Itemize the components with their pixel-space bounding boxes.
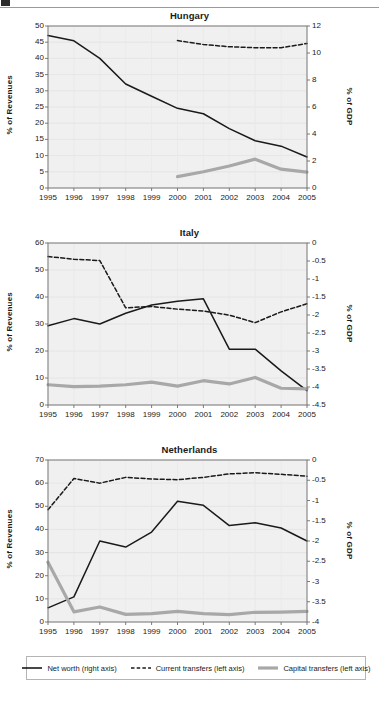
y-tick-label-right: 8 xyxy=(312,76,342,84)
page-header-artifact xyxy=(0,0,379,9)
x-tick-label: 2002 xyxy=(215,194,243,202)
y-tick-label-right: 0 xyxy=(312,239,342,247)
chart-panel-0: Hungary 05101520253035404550024681012199… xyxy=(0,9,379,208)
y-tick-label-right: 2 xyxy=(312,157,342,165)
y-tick-label-right: -2 xyxy=(312,537,342,545)
y-axis-label-right: % of GDP xyxy=(345,85,354,129)
y-tick-label-right: -2.5 xyxy=(312,557,342,565)
y-tick-label-left: 30 xyxy=(12,549,44,557)
x-tick-label: 2000 xyxy=(164,628,192,636)
y-tick-label-right: 0 xyxy=(312,184,342,192)
y-tick-label-left: 50 xyxy=(12,502,44,510)
y-tick-label-left: 10 xyxy=(12,374,44,382)
plot-area-2: 010203040506070-4-3.5-3-2.5-2-1.5-1-0.50… xyxy=(0,456,379,642)
y-tick-label-right: 12 xyxy=(312,22,342,30)
y-tick-label-right: -2.5 xyxy=(312,329,342,337)
y-tick-label-left: 40 xyxy=(12,525,44,533)
x-tick-label: 2002 xyxy=(215,411,243,419)
legend-item-0: Net worth (right axis) xyxy=(21,664,116,673)
x-tick-label: 2005 xyxy=(293,628,321,636)
y-tick-label-right: -1 xyxy=(312,497,342,505)
y-tick-label-left: 15 xyxy=(12,135,44,143)
x-tick-label: 2001 xyxy=(189,628,217,636)
y-tick-label-right: -0.5 xyxy=(312,257,342,265)
y-tick-label-left: 20 xyxy=(12,119,44,127)
x-tick-label: 1996 xyxy=(60,628,88,636)
x-tick-label: 1997 xyxy=(86,411,114,419)
x-tick-label: 1999 xyxy=(138,194,166,202)
y-tick-label-left: 10 xyxy=(12,595,44,603)
legend-swatch-icon xyxy=(257,664,279,672)
y-tick-label-left: 60 xyxy=(12,479,44,487)
x-tick-label: 1997 xyxy=(86,194,114,202)
y-tick-label-right: -3 xyxy=(312,578,342,586)
x-tick-label: 1999 xyxy=(138,628,166,636)
x-tick-label: 2004 xyxy=(267,194,295,202)
chart-title-2: Netherlands xyxy=(0,443,379,456)
x-tick-label: 1998 xyxy=(112,628,140,636)
y-tick-label-right: -3.5 xyxy=(312,365,342,373)
y-tick-label-left: 25 xyxy=(12,103,44,111)
y-tick-label-right: -1 xyxy=(312,275,342,283)
y-tick-label-left: 0 xyxy=(12,184,44,192)
plot-area-1: 0102030405060-4.5-4-3.5-3-2.5-2-1.5-1-0.… xyxy=(0,239,379,425)
y-tick-label-right: -4 xyxy=(312,618,342,626)
y-axis-label-left: % of Revenues xyxy=(5,296,14,352)
x-tick-label: 1996 xyxy=(60,194,88,202)
y-tick-label-left: 5 xyxy=(12,168,44,176)
y-tick-label-left: 40 xyxy=(12,293,44,301)
x-tick-label: 2001 xyxy=(189,194,217,202)
y-axis-label-left: % of Revenues xyxy=(5,79,14,135)
legend-item-1: Current transfers (left axis) xyxy=(130,664,245,673)
legend-label: Net worth (right axis) xyxy=(47,664,116,673)
y-tick-label-left: 35 xyxy=(12,71,44,79)
y-tick-label-right: -3.5 xyxy=(312,598,342,606)
y-tick-label-right: -3 xyxy=(312,347,342,355)
y-tick-label-left: 50 xyxy=(12,266,44,274)
legend-item-2: Capital transfers (left axis) xyxy=(257,664,370,673)
x-tick-label: 2004 xyxy=(267,411,295,419)
y-tick-label-right: 4 xyxy=(312,130,342,138)
y-axis-label-right: % of GDP xyxy=(345,519,354,563)
y-tick-label-right: -4 xyxy=(312,383,342,391)
y-tick-label-left: 0 xyxy=(12,401,44,409)
y-tick-label-left: 45 xyxy=(12,38,44,46)
y-tick-label-right: -4.5 xyxy=(312,401,342,409)
x-tick-label: 1996 xyxy=(60,411,88,419)
y-tick-label-left: 30 xyxy=(12,87,44,95)
y-tick-label-left: 20 xyxy=(12,347,44,355)
x-tick-label: 2004 xyxy=(267,628,295,636)
y-tick-label-right: 10 xyxy=(312,49,342,57)
x-tick-label: 1998 xyxy=(112,194,140,202)
x-tick-label: 1998 xyxy=(112,411,140,419)
legend-label: Capital transfers (left axis) xyxy=(283,664,370,673)
x-tick-label: 1999 xyxy=(138,411,166,419)
y-axis-label-left: % of Revenues xyxy=(5,513,14,569)
x-tick-label: 2003 xyxy=(241,411,269,419)
y-tick-label-right: -1.5 xyxy=(312,517,342,525)
y-tick-label-left: 60 xyxy=(12,239,44,247)
y-tick-label-left: 20 xyxy=(12,572,44,580)
plot-area-0: 0510152025303540455002468101219951996199… xyxy=(0,22,379,208)
chart-panel-2: Netherlands 010203040506070-4-3.5-3-2.5-… xyxy=(0,443,379,642)
x-tick-label: 1995 xyxy=(34,411,62,419)
x-tick-label: 1997 xyxy=(86,628,114,636)
legend-swatch-icon xyxy=(21,664,43,672)
y-tick-label-left: 30 xyxy=(12,320,44,328)
y-tick-label-left: 40 xyxy=(12,54,44,62)
charts-stack: Hungary 05101520253035404550024681012199… xyxy=(0,9,379,710)
chart-legend: Net worth (right axis)Current transfers … xyxy=(26,656,366,680)
chart-panel-1: Italy 0102030405060-4.5-4-3.5-3-2.5-2-1.… xyxy=(0,226,379,425)
x-tick-label: 2001 xyxy=(189,411,217,419)
y-tick-label-left: 10 xyxy=(12,152,44,160)
y-tick-label-right: 0 xyxy=(312,456,342,464)
y-axis-label-right: % of GDP xyxy=(345,302,354,346)
y-tick-label-right: -1.5 xyxy=(312,293,342,301)
chart-title-1: Italy xyxy=(0,226,379,239)
x-tick-label: 2002 xyxy=(215,628,243,636)
chart-title-0: Hungary xyxy=(0,9,379,22)
header-mark-icon xyxy=(1,0,10,6)
x-tick-label: 1995 xyxy=(34,194,62,202)
x-tick-label: 2003 xyxy=(241,628,269,636)
x-tick-label: 1995 xyxy=(34,628,62,636)
